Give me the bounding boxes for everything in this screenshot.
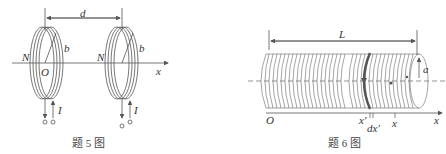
- label-current-right: I: [133, 104, 139, 116]
- figure-6: L a O x x′ dx′ x 题 6 图: [248, 28, 446, 149]
- label-current-left: I: [57, 104, 63, 116]
- label-L: L: [338, 28, 345, 40]
- diagram-canvas: d b b N N O x I I 题 5 图: [0, 0, 446, 154]
- label-x-5: x: [155, 65, 161, 77]
- label-x-point: x: [391, 117, 397, 129]
- label-d: d: [80, 7, 86, 19]
- label-b-right: b: [139, 42, 145, 54]
- label-n-right: N: [96, 51, 105, 63]
- label-x-prime: x′: [358, 114, 367, 126]
- label-x-6: x: [433, 114, 439, 126]
- label-dx-prime: dx′: [367, 122, 380, 134]
- label-a: a: [423, 63, 429, 75]
- caption-5: 题 5 图: [72, 137, 105, 149]
- label-origin-6: O: [266, 114, 274, 126]
- label-b-left: b: [64, 42, 70, 54]
- caption-6: 题 6 图: [328, 137, 361, 149]
- figure-5: d b b N N O x I I 题 5 图: [12, 7, 168, 149]
- label-n-left: N: [21, 51, 30, 63]
- label-origin-5: O: [41, 66, 49, 78]
